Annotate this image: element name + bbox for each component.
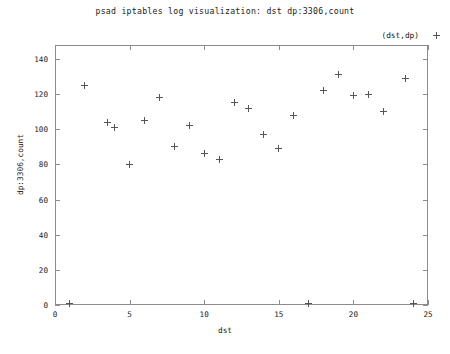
data-point bbox=[171, 143, 178, 150]
data-point bbox=[141, 117, 148, 124]
x-tick-mark bbox=[428, 300, 429, 305]
chart-legend: (dst,dp) bbox=[381, 31, 440, 40]
data-point bbox=[290, 112, 297, 119]
y-tick-label: 40 bbox=[8, 230, 48, 239]
chart-title: psad iptables log visualization: dst dp:… bbox=[0, 6, 450, 16]
data-point bbox=[186, 122, 193, 129]
data-point bbox=[380, 108, 387, 115]
x-tick-mark bbox=[428, 45, 429, 50]
y-tick-label: 60 bbox=[8, 195, 48, 204]
data-point bbox=[320, 87, 327, 94]
legend-entry-label: (dst,dp) bbox=[381, 31, 419, 40]
y-tick-label: 80 bbox=[8, 160, 48, 169]
data-point bbox=[335, 71, 342, 78]
data-point bbox=[260, 131, 267, 138]
scatter-chart: psad iptables log visualization: dst dp:… bbox=[0, 0, 450, 354]
x-tick-label: 20 bbox=[338, 310, 368, 319]
data-point bbox=[201, 150, 208, 157]
data-point bbox=[410, 300, 417, 307]
x-tick-label: 10 bbox=[189, 310, 219, 319]
data-point bbox=[104, 119, 111, 126]
plot-area bbox=[55, 45, 428, 305]
y-tick-label: 0 bbox=[8, 301, 48, 310]
data-point bbox=[111, 124, 118, 131]
x-tick-label: 15 bbox=[264, 310, 294, 319]
data-point bbox=[126, 161, 133, 168]
x-axis-label: dst bbox=[0, 326, 450, 335]
data-point bbox=[156, 94, 163, 101]
plus-marker-icon bbox=[433, 32, 440, 39]
data-point bbox=[216, 156, 223, 163]
y-tick-mark bbox=[55, 305, 60, 306]
y-tick-label: 100 bbox=[8, 125, 48, 134]
y-tick-mark bbox=[423, 305, 428, 306]
data-point bbox=[66, 300, 73, 307]
data-point bbox=[365, 91, 372, 98]
y-tick-label: 20 bbox=[8, 265, 48, 274]
data-point bbox=[350, 92, 357, 99]
x-tick-label: 0 bbox=[40, 310, 70, 319]
data-point bbox=[245, 105, 252, 112]
data-point bbox=[305, 300, 312, 307]
data-point bbox=[231, 99, 238, 106]
data-point bbox=[275, 145, 282, 152]
y-tick-label: 140 bbox=[8, 55, 48, 64]
y-axis-label: dp:3306,count bbox=[16, 105, 25, 225]
x-tick-label: 5 bbox=[115, 310, 145, 319]
data-point bbox=[81, 82, 88, 89]
data-point bbox=[402, 75, 409, 82]
x-tick-label: 25 bbox=[413, 310, 443, 319]
y-tick-label: 120 bbox=[8, 90, 48, 99]
